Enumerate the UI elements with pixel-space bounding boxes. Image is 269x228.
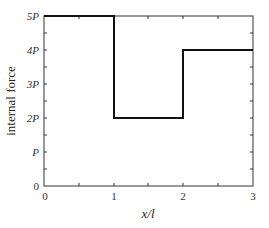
svg-text:3P: 3P xyxy=(26,78,40,90)
svg-text:2: 2 xyxy=(180,190,186,202)
x-axis-title: x/l xyxy=(141,206,155,221)
y-axis-title: internal force xyxy=(3,66,18,136)
y-tick-labels: 5P 4P 3P 2P P 0 xyxy=(26,10,40,192)
svg-text:1: 1 xyxy=(111,190,117,202)
svg-text:0: 0 xyxy=(42,190,48,202)
svg-text:0: 0 xyxy=(34,180,40,192)
svg-text:P: P xyxy=(31,146,39,158)
internal-force-line xyxy=(44,16,253,118)
axis-ticks xyxy=(44,16,253,186)
chart: 5P 4P 3P 2P P 0 0 1 2 3 x/l internal for… xyxy=(0,0,269,228)
svg-text:5P: 5P xyxy=(27,10,40,22)
svg-text:2P: 2P xyxy=(27,112,40,124)
svg-text:4P: 4P xyxy=(27,44,40,56)
svg-text:3: 3 xyxy=(250,190,256,202)
plot-frame xyxy=(44,16,253,186)
x-tick-labels: 0 1 2 3 xyxy=(42,190,256,202)
